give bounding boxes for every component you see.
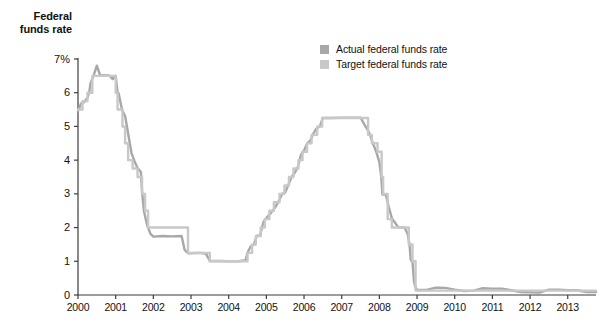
series-line	[78, 66, 596, 293]
legend-label-target: Target federal funds rate	[336, 59, 447, 70]
y-axis-title: Federal funds rate	[0, 10, 72, 36]
y-tick-label: 2	[30, 222, 70, 233]
legend-swatch-actual	[320, 45, 329, 54]
x-tick-label: 2013	[546, 302, 590, 313]
legend-label-actual: Actual federal funds rate	[336, 44, 447, 55]
legend-item-target: Target federal funds rate	[320, 58, 447, 71]
federal-funds-rate-chart: Federal funds rate Actual federal funds …	[0, 0, 603, 327]
data-series	[78, 66, 596, 293]
axes	[74, 58, 596, 299]
y-tick-label: 5	[30, 121, 70, 132]
legend-item-actual: Actual federal funds rate	[320, 43, 447, 56]
legend-swatch-target	[320, 60, 329, 69]
y-tick-label: 4	[30, 155, 70, 166]
y-tick-label: 3	[30, 188, 70, 199]
y-tick-label: 1	[30, 256, 70, 267]
y-tick-label: 0	[30, 290, 70, 301]
chart-legend: Actual federal funds rate Target federal…	[320, 43, 447, 73]
plot-area	[0, 0, 603, 327]
y-tick-label: 7%	[30, 54, 70, 65]
y-tick-label: 6	[30, 87, 70, 98]
series-line	[78, 76, 596, 291]
